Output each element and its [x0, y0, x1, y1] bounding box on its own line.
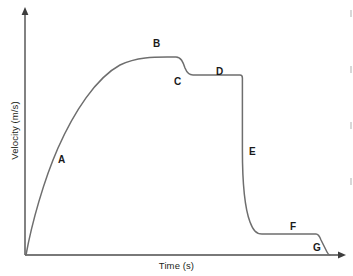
velocity-time-chart: Time (s) Velocity (m/s) A B C D E F G: [0, 0, 353, 276]
curve-label-c: C: [174, 77, 181, 87]
x-axis-arrowhead: [338, 252, 346, 259]
curve-label-g: G: [313, 243, 321, 253]
curve-label-b: B: [153, 39, 160, 49]
y-axis-title: Velocity (m/s): [9, 71, 20, 191]
chart-plot-area: [0, 0, 353, 276]
page-edge-mark: [350, 66, 352, 73]
curve-label-e: E: [249, 147, 256, 157]
y-axis-arrowhead: [22, 7, 29, 15]
curve-label-f: F: [290, 222, 296, 232]
curve-label-a: A: [58, 155, 65, 165]
page-edge-mark: [350, 178, 352, 185]
curve-label-d: D: [216, 67, 223, 77]
x-axis-title: Time (s): [0, 260, 353, 271]
axes-group: [22, 7, 346, 258]
page-edge-mark: [350, 10, 352, 17]
page-edge-mark: [350, 122, 352, 129]
